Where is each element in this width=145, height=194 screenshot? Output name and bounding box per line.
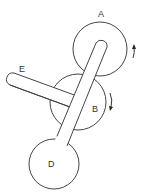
label-b: B <box>92 104 98 114</box>
label-a: A <box>98 9 104 19</box>
rotation-arrow-a-icon <box>132 44 136 58</box>
rotation-arrow-b-icon <box>109 93 113 111</box>
linkage-diagram: A B D E <box>0 0 145 194</box>
label-d: D <box>48 159 55 169</box>
diagram-canvas: A B D E <box>0 0 145 194</box>
label-e: E <box>19 64 25 74</box>
